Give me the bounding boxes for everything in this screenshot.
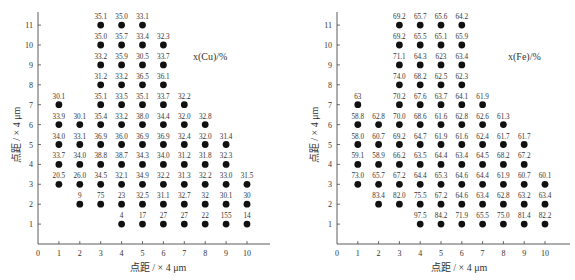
data-point-label: 32.1	[115, 172, 128, 180]
data-point-label: 33.0	[220, 172, 233, 180]
data-point-label: 38.0	[136, 113, 149, 121]
data-point-label: 33.2	[115, 73, 128, 81]
data-point-label: 34.9	[136, 172, 149, 180]
data-point-label: 61.3	[497, 113, 510, 121]
data-point	[181, 121, 188, 128]
data-point	[354, 161, 361, 168]
x-tick-label: 2	[78, 249, 82, 258]
data-point-label: 623	[436, 53, 447, 61]
data-point	[97, 62, 104, 69]
data-point	[354, 181, 361, 188]
data-point-label: 63.5	[414, 152, 427, 160]
data-point	[396, 81, 403, 88]
data-point-label: 70.2	[393, 93, 406, 101]
data-point	[223, 161, 230, 168]
data-point-label: 35.1	[136, 93, 149, 101]
data-point	[118, 42, 125, 49]
y-tick-label: 7	[29, 101, 33, 110]
y-tick-label: 9	[328, 61, 332, 70]
data-point-label: 32.4	[178, 133, 191, 141]
y-tick-label: 1	[29, 220, 33, 229]
data-point	[438, 62, 445, 69]
data-point	[118, 141, 125, 148]
x-tick-label: 0	[335, 249, 339, 258]
data-point-label: 58.0	[352, 133, 365, 141]
data-point	[521, 141, 528, 148]
data-point-label: 62.6	[476, 113, 489, 121]
data-point-label: 32.0	[178, 113, 191, 121]
data-point-label: 97.5	[414, 212, 427, 220]
data-point	[417, 161, 424, 168]
data-point-label: 22	[202, 212, 210, 220]
x-tick-label: 3	[397, 249, 401, 258]
data-point-label: 67.2	[435, 192, 448, 200]
data-point-label: 65.1	[435, 33, 448, 41]
data-point	[118, 121, 125, 128]
data-point-label: 75.0	[497, 212, 510, 220]
data-point-label: 35.9	[115, 53, 128, 61]
data-point	[118, 81, 125, 88]
data-point-label: 64.6	[456, 172, 469, 180]
data-point	[458, 161, 465, 168]
data-point-label: 30.1	[74, 113, 87, 121]
fe-scatter-chart: 012345678910123456789101169.265.765.664.…	[324, 12, 570, 258]
data-point-label: 64.1	[456, 93, 469, 101]
data-point-label: 34.5	[94, 172, 107, 180]
data-point-label: 31.4	[220, 133, 233, 141]
data-point	[181, 181, 188, 188]
data-point	[139, 121, 146, 128]
data-point	[181, 201, 188, 208]
data-point	[56, 181, 63, 188]
y-tick-label: 7	[328, 101, 332, 110]
data-point	[479, 201, 486, 208]
data-point	[521, 201, 528, 208]
data-point-label: 35.1	[94, 13, 107, 21]
data-point-label: 30	[243, 192, 251, 200]
data-point	[354, 121, 361, 128]
data-point	[202, 141, 209, 148]
data-point	[396, 141, 403, 148]
data-point-label: 65.7	[414, 13, 427, 21]
data-point-label: 32.2	[157, 172, 170, 180]
data-point-label: 61.6	[456, 133, 469, 141]
data-point	[479, 161, 486, 168]
data-point-label: 35.0	[115, 13, 128, 21]
fe-chart-title: x(Fe)/%	[508, 51, 541, 63]
data-point	[76, 181, 83, 188]
data-point	[438, 42, 445, 49]
data-point	[223, 181, 230, 188]
data-point-label: 62.5	[435, 73, 448, 81]
y-tick-label: 6	[29, 121, 33, 130]
data-point	[417, 221, 424, 228]
data-point	[396, 42, 403, 49]
y-tick-label: 8	[29, 81, 33, 90]
data-point	[438, 81, 445, 88]
data-point	[160, 62, 167, 69]
data-point	[396, 181, 403, 188]
data-point-label: 65.3	[435, 172, 448, 180]
y-tick-label: 3	[29, 180, 33, 189]
data-point	[438, 201, 445, 208]
data-point	[56, 101, 63, 108]
data-point	[181, 161, 188, 168]
data-point-label: 63.4	[476, 192, 489, 200]
data-point	[202, 181, 209, 188]
data-point	[500, 201, 507, 208]
y-tick-label: 11	[324, 21, 332, 30]
data-point-label: 36.9	[94, 133, 107, 141]
data-point-label: 64.4	[414, 172, 427, 180]
data-point	[139, 161, 146, 168]
data-point	[139, 101, 146, 108]
data-point-label: 67.2	[393, 172, 406, 180]
x-tick-label: 8	[501, 249, 505, 258]
data-point	[417, 81, 424, 88]
data-point	[181, 141, 188, 148]
data-point	[417, 42, 424, 49]
data-point	[438, 161, 445, 168]
data-point-label: 60.1	[539, 172, 552, 180]
x-tick-label: 8	[203, 249, 207, 258]
data-point	[500, 141, 507, 148]
data-point	[458, 42, 465, 49]
data-point	[417, 181, 424, 188]
data-point-label: 63.2	[518, 192, 531, 200]
